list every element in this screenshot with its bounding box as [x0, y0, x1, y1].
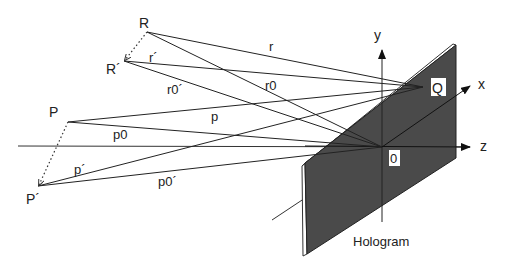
point-label-r: R [139, 15, 149, 31]
ray-label-r0: r0 [265, 78, 277, 93]
point-label-q: Q [432, 80, 443, 96]
ray-label-r0-prime: r0´ [167, 82, 183, 97]
ray-label-p-prime: p´ [74, 162, 86, 177]
ray-label-r: r [269, 39, 274, 54]
displacement-r-arrow [125, 32, 147, 60]
hologram-label: Hologram [353, 234, 409, 249]
displacement-p-arrow [39, 122, 68, 185]
axis-label-z: z [480, 138, 487, 154]
ray-label-r-prime: r´ [149, 50, 158, 65]
ray-label-p: p [211, 109, 218, 124]
diagram-canvas: R R´ P P´ Q 0 r r´ r0 r0´ p p0 p´ p0´ y … [0, 0, 505, 268]
hologram-plate [305, 45, 456, 254]
point-label-p: P [49, 104, 58, 120]
point-label-p-prime: P´ [26, 191, 40, 207]
ray-label-p0-prime: p0´ [158, 174, 177, 189]
ray-label-p0: p0 [113, 127, 127, 142]
point-label-r-prime: R´ [106, 61, 121, 77]
hologram-diagram: R R´ P P´ Q 0 r r´ r0 r0´ p p0 p´ p0´ y … [0, 0, 505, 268]
axis-label-x: x [478, 76, 485, 92]
origin-label: 0 [390, 151, 397, 166]
axis-label-y: y [374, 27, 381, 43]
